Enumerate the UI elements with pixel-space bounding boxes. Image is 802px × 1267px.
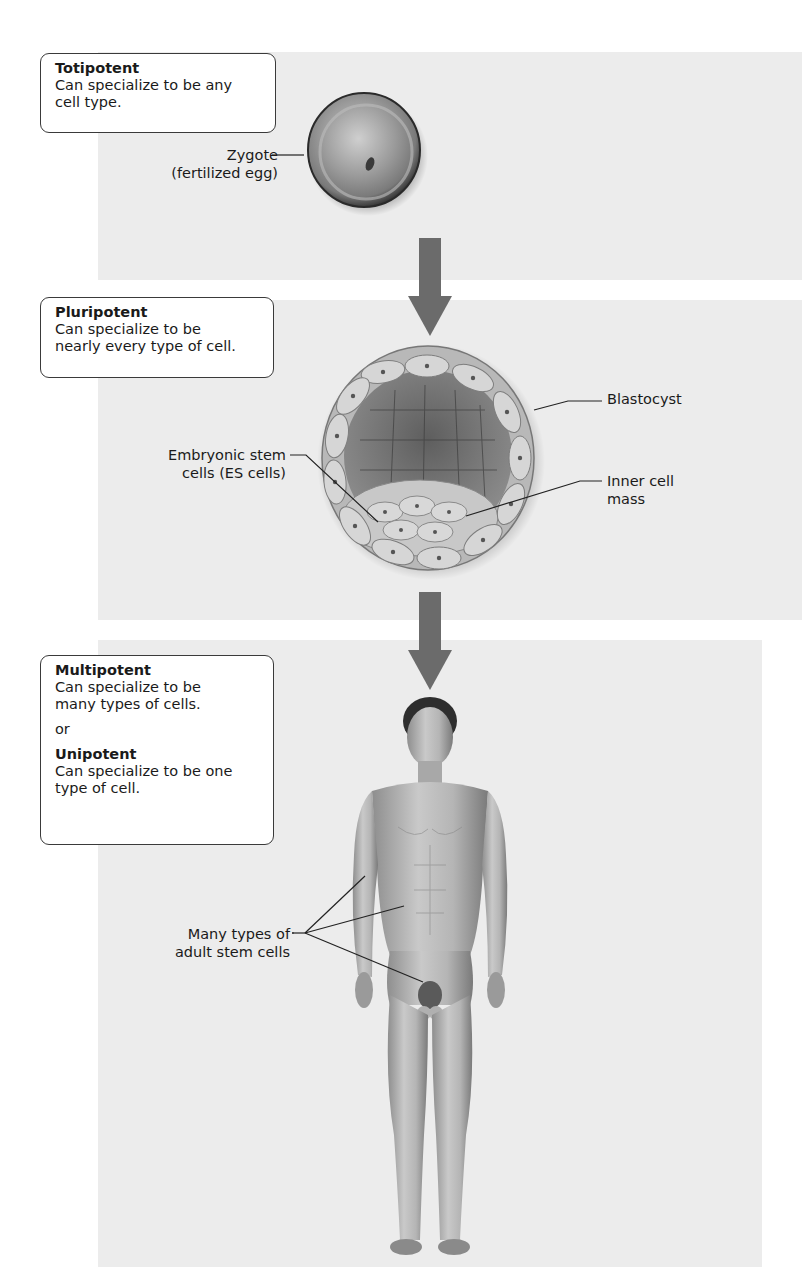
multipotent-desc-line1: Can specialize to be [55,679,259,696]
down-arrow-icon [408,592,452,692]
unipotent-desc-line1: Can specialize to be one [55,763,259,780]
unipotent-desc-line2: type of cell. [55,780,259,797]
adult-stem-cells-leader-lines [0,860,802,1000]
unipotent-title: Unipotent [55,746,259,763]
multipotent-unipotent-label-box: Multipotent Can specialize to be many ty… [40,655,274,845]
multipotent-title: Multipotent [55,662,259,679]
or-connector: or [55,721,259,738]
blastocyst-leader-lines [0,0,802,640]
multipotent-desc-line2: many types of cells. [55,696,259,713]
